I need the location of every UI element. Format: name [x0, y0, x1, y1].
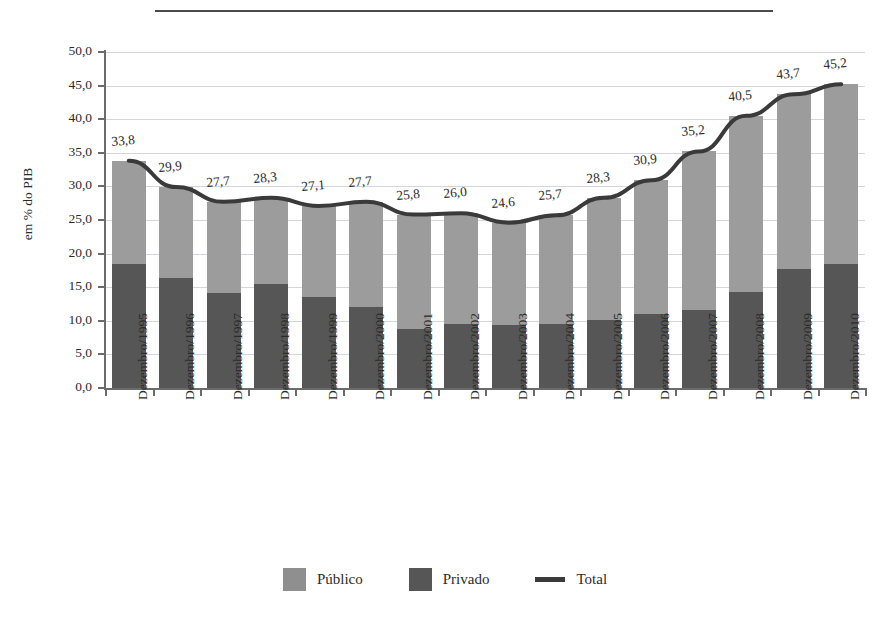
- x-tick-mark: [770, 388, 772, 396]
- x-tick-label: Dezembro/1999: [325, 313, 341, 400]
- x-tick-label: Dezembro/1998: [277, 313, 293, 400]
- legend-label: Total: [576, 571, 607, 588]
- x-tick-label: Dezembro/2000: [372, 313, 388, 400]
- x-tick-label: Dezembro/2002: [467, 313, 483, 400]
- y-tick-label: 5,0: [32, 345, 92, 361]
- x-tick-mark: [343, 388, 345, 396]
- y-tick-label: 15,0: [32, 278, 92, 294]
- x-tick-mark: [865, 388, 867, 396]
- x-tick-mark: [295, 388, 297, 396]
- data-label: 29,9: [158, 158, 183, 176]
- data-label: 26,0: [443, 184, 468, 202]
- data-label: 45,2: [823, 55, 848, 73]
- y-tick-label: 35,0: [32, 144, 92, 160]
- legend-item: Público: [283, 568, 363, 591]
- total-line-path: [129, 84, 842, 222]
- data-label: 27,7: [205, 173, 230, 191]
- data-label: 24,6: [490, 194, 515, 212]
- x-tick-label: Dezembro/2001: [420, 313, 436, 400]
- x-tick-mark: [153, 388, 155, 396]
- legend-line-swatch: [535, 577, 565, 582]
- data-label: 35,2: [680, 122, 705, 140]
- y-tick-label: 40,0: [32, 110, 92, 126]
- x-tick-mark: [628, 388, 630, 396]
- data-label: 43,7: [775, 65, 800, 83]
- x-tick-mark: [438, 388, 440, 396]
- title-rule: [155, 10, 773, 12]
- x-tick-label: Dezembro/2009: [800, 313, 816, 400]
- data-label: 28,3: [253, 169, 278, 187]
- x-tick-mark: [818, 388, 820, 396]
- x-tick-label: Dezembro/1996: [182, 313, 198, 400]
- x-tick-label: Dezembro/2010: [847, 313, 863, 400]
- legend-color-swatch: [409, 568, 432, 591]
- y-axis-label: em % do PIB: [20, 114, 36, 294]
- x-tick-label: Dezembro/2008: [752, 313, 768, 400]
- legend-label: Público: [317, 571, 363, 588]
- y-tick-label: 10,0: [32, 312, 92, 328]
- data-label: 28,3: [585, 169, 610, 187]
- x-tick-mark: [723, 388, 725, 396]
- data-label: 33,8: [110, 132, 135, 150]
- data-label: 30,9: [633, 151, 658, 169]
- x-tick-label: Dezembro/1997: [230, 313, 246, 400]
- x-tick-label: Dezembro/2003: [515, 313, 531, 400]
- y-tick-label: 30,0: [32, 177, 92, 193]
- x-tick-mark: [485, 388, 487, 396]
- x-tick-mark: [675, 388, 677, 396]
- chart-legend: PúblicoPrivadoTotal: [0, 568, 890, 591]
- legend-item: Total: [535, 571, 607, 588]
- y-tick-label: 45,0: [32, 77, 92, 93]
- legend-item: Privado: [409, 568, 490, 591]
- data-label: 27,1: [300, 177, 325, 195]
- x-tick-label: Dezembro/1995: [135, 313, 151, 400]
- legend-label: Privado: [443, 571, 490, 588]
- x-tick-label: Dezembro/2007: [705, 313, 721, 400]
- x-tick-mark: [248, 388, 250, 396]
- x-tick-label: Dezembro/2005: [610, 313, 626, 400]
- y-tick-label: 50,0: [32, 43, 92, 59]
- x-tick-label: Dezembro/2004: [562, 313, 578, 400]
- y-tick-label: 20,0: [32, 245, 92, 261]
- data-label: 25,7: [538, 186, 563, 204]
- x-tick-mark: [390, 388, 392, 396]
- data-label: 40,5: [728, 87, 753, 105]
- data-label: 27,7: [348, 173, 373, 191]
- x-tick-mark: [533, 388, 535, 396]
- y-tick-label: 0,0: [32, 379, 92, 395]
- x-tick-mark: [105, 388, 107, 396]
- data-label: 25,8: [395, 186, 420, 204]
- chart-figure: em % do PIB 50,045,040,035,030,025,020,0…: [0, 0, 890, 637]
- x-tick-mark: [580, 388, 582, 396]
- y-tick-label: 25,0: [32, 211, 92, 227]
- legend-color-swatch: [283, 568, 306, 591]
- x-tick-mark: [200, 388, 202, 396]
- x-tick-label: Dezembro/2006: [657, 313, 673, 400]
- chart-title-strip: [0, 0, 890, 16]
